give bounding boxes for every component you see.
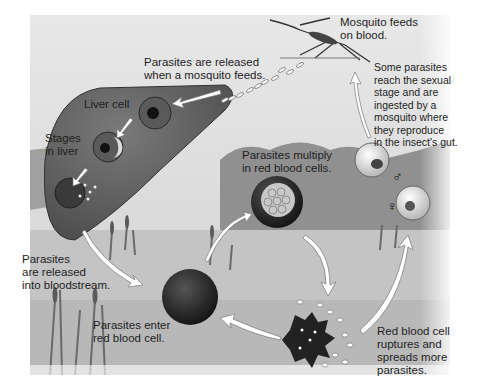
label-released-bloodstream: Parasites are released into bloodstream. [22, 253, 110, 292]
male-symbol-icon: ♂ [392, 168, 403, 184]
label-rbc-ruptures: Red blood cell ruptures and spreads more… [377, 325, 450, 377]
female-gametocyte [396, 186, 430, 220]
rbc-enter [162, 269, 218, 325]
female-symbol-icon: ♀ [387, 198, 398, 214]
label-enter-rbc: Parasites enter red blood cell. [93, 319, 170, 345]
label-released-when-feeds: Parasites are released when a mosquito f… [144, 56, 265, 82]
label-multiply: Parasites multiply in red blood cells. [242, 149, 332, 175]
label-sexual-stage: Some parasites reach the sexual stage an… [374, 61, 458, 149]
label-liver-cell: Liver cell [84, 98, 129, 111]
label-mosquito-feeds: Mosquito feeds on blood. [340, 16, 418, 42]
malaria-life-cycle-diagram: Mosquito feeds on blood. Parasites are r… [0, 0, 478, 388]
rbc-multiplying [251, 176, 303, 228]
label-stages-in-liver: Stages in liver [45, 132, 81, 158]
liver-cell-1 [139, 97, 171, 129]
